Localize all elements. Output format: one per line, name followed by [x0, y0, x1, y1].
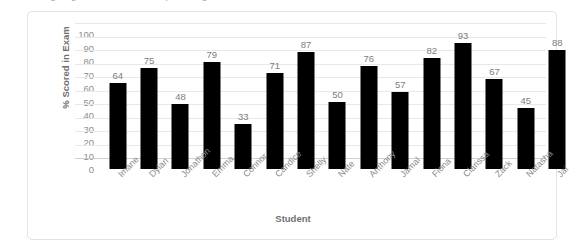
bar[interactable]: [329, 102, 346, 170]
bar-value-label: 88: [552, 37, 563, 48]
bar-value-label: 50: [332, 89, 343, 100]
bar-value-label: 48: [175, 91, 186, 102]
bar-value-label: 57: [395, 79, 406, 90]
bar-value-label: 76: [364, 53, 375, 64]
bar[interactable]: [423, 58, 440, 169]
bar-slot: 71: [259, 34, 290, 169]
chart-container[interactable]: 0102030405060708090100 % Scored in Exam …: [27, 11, 557, 240]
bar-value-label: 79: [207, 49, 218, 60]
bar-slot: 50: [322, 34, 353, 169]
bar-slot: 82: [416, 34, 447, 169]
bar-value-label: 75: [144, 55, 155, 66]
bar[interactable]: [141, 68, 158, 169]
bar-slot: 76: [353, 34, 384, 169]
bar-value-label: 67: [489, 66, 500, 77]
bar-value-label: 87: [301, 39, 312, 50]
bar-value-label: 71: [269, 60, 280, 71]
bar[interactable]: [517, 108, 534, 169]
bar[interactable]: [266, 73, 283, 169]
clipped-top-text: the following diagram shows the exam per…: [3, 0, 217, 1]
clipped-top-text-strip: the following diagram shows the exam per…: [0, 0, 587, 9]
bar[interactable]: [298, 52, 315, 169]
bar-slot: 48: [165, 34, 196, 169]
gridline-100: [75, 23, 546, 24]
bar-slot: 64: [102, 34, 133, 169]
bar-slot: 75: [133, 34, 164, 169]
bar-value-label: 45: [521, 95, 532, 106]
x-axis-title: Student: [28, 213, 558, 224]
bar-series: 647548793371875076578293674588: [102, 34, 573, 169]
bar-value-label: 33: [238, 111, 249, 122]
bar-value-label: 64: [112, 70, 123, 81]
bar[interactable]: [360, 66, 377, 169]
bar[interactable]: [172, 104, 189, 169]
bar-slot: 33: [228, 34, 259, 169]
bar[interactable]: [109, 83, 126, 169]
bar-value-label: 82: [426, 45, 437, 56]
bar[interactable]: [455, 43, 472, 169]
y-tick-label: 0: [89, 164, 94, 175]
bar-slot: 45: [510, 34, 541, 169]
x-axis-tick-labels: ImaneDylanJonathonEmmaConnorCandiceShell…: [102, 172, 573, 217]
bar-value-label: 93: [458, 30, 469, 41]
y-axis-title: % Scored in Exam: [60, 13, 71, 123]
bar-slot: 93: [447, 34, 478, 169]
